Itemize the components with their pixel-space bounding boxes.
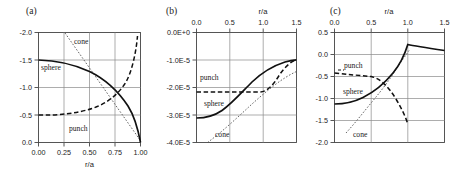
panel-a-xtick-label: 1.00 <box>134 148 148 157</box>
panel-b-ytick-label: -2.0E-5 <box>166 83 190 92</box>
panel-a-xtick-label: 0.50 <box>83 148 97 157</box>
panel-a-xtick-label: 0.75 <box>108 148 122 157</box>
panel-b-ytick-label: -3.0E-5 <box>166 111 190 120</box>
panel-a-svg: -2.0 -1.5 -1.0 -0.5 0.0 0.00 0.25 0.50 0… <box>0 0 152 181</box>
panel-b: (b) 0.0E+0 -1.0E-5 -2.0E-5 -3.0E-5 <box>152 0 304 181</box>
panel-a-label-sphere: sphere <box>41 63 61 72</box>
panel-a-xaxis-title: r/a <box>85 160 95 169</box>
panel-b-xtick-label: 1.5 <box>292 18 302 27</box>
panel-c-xaxis-title: r/a <box>385 7 395 16</box>
panel-a-ytick-label: -1.5 <box>20 56 32 65</box>
panel-b-xaxis-title: r/a <box>259 7 269 16</box>
panel-a-ytick-label: 0.0 <box>22 138 32 147</box>
panel-b-xtick-label: 0.5 <box>225 18 235 27</box>
panel-c-xtick-label: 0.0 <box>330 18 340 27</box>
panel-a-label-cone: cone <box>74 37 89 46</box>
panel-c-ytick-label: -1.5 <box>316 116 328 125</box>
panel-c-label-sphere: sphere <box>343 87 363 96</box>
panel-c-xtick-label: 1.0 <box>403 18 413 27</box>
panel-b-ytick-label: 0.0E+0 <box>167 28 190 37</box>
panel-b-xtick-label: 0.0 <box>192 18 202 27</box>
panel-c-ytick-label: -1.0 <box>316 94 328 103</box>
panel-c-ytick-label: -2.0 <box>316 138 328 147</box>
panel-a-ytick-label: -1.0 <box>20 83 32 92</box>
panel-a-series-punch <box>39 36 138 115</box>
panel-c-xtick-label: 0.5 <box>366 18 376 27</box>
panel-b-xtick-label: 1.0 <box>258 18 268 27</box>
panel-c: (c) 0.5 0.0 -0.5 -1.0 <box>304 0 460 181</box>
panel-b-label-punch: punch <box>200 73 219 82</box>
panel-c-ytick-label: -0.5 <box>316 72 328 81</box>
panel-b-label-cone: cone <box>215 130 230 139</box>
panel-c-ytick-label: 0.5 <box>318 28 328 37</box>
figure-three-panel-plot: (a) -2.0 -1.5 - <box>0 0 460 181</box>
panel-c-svg: 0.5 0.0 -0.5 -1.0 -1.5 -2.0 0.0 0.5 1.0 … <box>304 0 460 181</box>
panel-b-ytick-label: -1.0E-5 <box>166 56 190 65</box>
panel-c-xtick-label: 1.5 <box>440 18 450 27</box>
panel-c-label-cone: cone <box>353 130 368 139</box>
panel-b-ytick-label: -4.0E-5 <box>166 138 190 147</box>
panel-b-svg: 0.0E+0 -1.0E-5 -2.0E-5 -3.0E-5 -4.0E-5 0… <box>152 0 304 181</box>
panel-a: (a) -2.0 -1.5 - <box>0 0 152 181</box>
panel-c-ytick-label: 0.0 <box>318 50 328 59</box>
panel-a-label-punch: punch <box>69 124 88 133</box>
panel-c-label-punch: punch <box>344 61 363 70</box>
panel-a-xtick-label: 0.25 <box>57 148 71 157</box>
panel-b-label-sphere: sphere <box>204 99 224 108</box>
panel-a-xtick-label: 0.00 <box>32 148 46 157</box>
panel-a-ytick-label: -0.5 <box>20 111 32 120</box>
panel-a-ytick-label: -2.0 <box>20 28 32 37</box>
